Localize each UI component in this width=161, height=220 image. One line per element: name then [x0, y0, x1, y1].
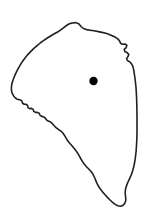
map-canvas — [0, 0, 161, 220]
outline-map-figure — [0, 0, 161, 220]
location-marker-dot[interactable] — [89, 77, 97, 85]
